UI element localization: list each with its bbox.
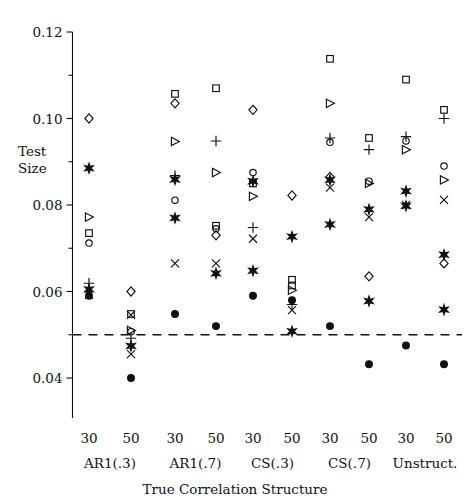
y-axis-ticks: 0.040.060.080.100.12 [32,24,72,386]
data-point-square [327,56,334,63]
data-point-triangle-right [326,99,334,107]
data-point-plus [211,136,221,146]
data-point-diamond [127,287,135,296]
data-point-square [213,85,220,92]
data-point-filled-circle [172,311,179,318]
x-tick-label: 50 [283,430,300,446]
data-point-star [440,305,449,315]
data-point-filled-circle [250,292,257,299]
data-point-triangle-right [249,192,257,200]
data-point-cross [249,235,257,243]
data-point-cross [212,259,220,267]
data-marker-layer [84,56,449,382]
group-label-unstruct: Unstruct. [393,455,458,471]
data-point-triangle-right [212,168,220,176]
group-label-cs7: CS(.7) [328,455,371,471]
data-point-square [86,230,93,237]
y-tick-label: 0.06 [32,284,62,300]
data-point-cross [171,259,179,267]
data-point-plus [439,113,449,123]
data-point-circle [172,197,178,203]
y-axis-title-line2: Size [18,160,47,176]
data-point-plus [364,144,374,154]
x-tick-label: 30 [397,430,414,446]
data-point-square [172,91,179,98]
data-point-filled-circle [403,342,410,349]
scatter-plot-figure: 0.040.060.080.100.12 Test Size 305030503… [0,0,471,503]
group-label-cs3: CS(.3) [251,455,294,471]
data-point-triangle-right [440,176,448,184]
x-tick-label: 50 [435,430,452,446]
data-point-triangle-right [85,213,93,221]
data-point-star [365,204,374,214]
test-size-scatter-chart: 0.040.060.080.100.12 Test Size 305030503… [0,0,471,503]
x-axis-tick-labels: 30503050305030503050 [80,430,452,446]
data-point-filled-circle [213,323,220,330]
data-point-diamond [365,272,373,281]
y-tick-label: 0.08 [32,197,62,213]
data-point-filled-circle [366,361,373,368]
data-point-circle [441,163,447,169]
data-point-star [249,266,258,276]
x-tick-label: 50 [122,430,139,446]
x-tick-label: 30 [321,430,338,446]
data-point-star [365,296,374,306]
data-point-diamond [171,99,179,108]
x-axis-title: True Correlation Structure [143,481,328,497]
y-tick-label: 0.04 [32,370,62,386]
data-point-diamond [249,105,257,114]
y-axis-title-line1: Test [18,143,47,159]
data-point-star [85,163,94,173]
data-point-filled-circle [441,361,448,368]
data-point-triangle-right [171,137,179,145]
data-point-star [402,186,411,196]
x-tick-label: 50 [207,430,224,446]
data-point-square [128,311,135,318]
data-point-square [403,76,410,83]
x-tick-label: 30 [166,430,183,446]
y-tick-label: 0.10 [32,111,62,127]
data-point-filled-circle [86,292,93,299]
data-point-star [127,341,136,351]
x-tick-label: 30 [244,430,261,446]
data-point-star [288,232,297,242]
data-point-plus [248,222,258,232]
data-point-square [366,135,373,142]
data-point-square [441,107,448,114]
data-point-circle [86,240,92,246]
data-point-diamond [85,114,93,123]
x-tick-label: 30 [80,430,97,446]
data-point-star [171,213,180,223]
data-point-filled-circle [128,375,135,382]
data-point-cross [440,196,448,204]
data-point-triangle-right [402,145,410,153]
group-label-ar13: AR1(.3) [83,455,136,471]
data-point-star [326,219,335,229]
data-point-filled-circle [327,323,334,330]
x-axis-group-labels: AR1(.3)AR1(.7)CS(.3)CS(.7)Unstruct. [83,455,457,471]
data-point-diamond [288,191,296,200]
group-label-ar17: AR1(.7) [169,455,222,471]
data-point-star [212,268,221,278]
x-tick-label: 50 [360,430,377,446]
y-tick-label: 0.12 [32,24,62,40]
